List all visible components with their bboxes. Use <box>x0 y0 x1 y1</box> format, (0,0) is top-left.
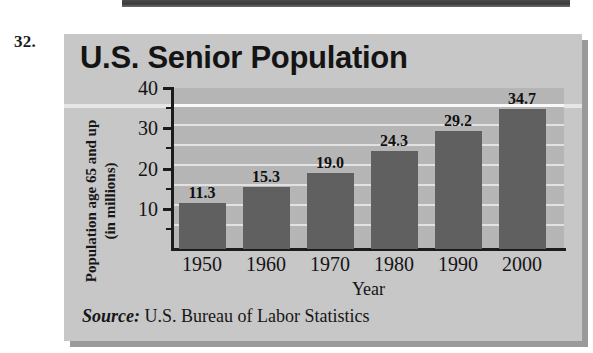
figure-page: 32. U.S. Senior Population Population ag… <box>0 0 593 353</box>
source-note: Source: U.S. Bureau of Labor Statistics <box>82 306 369 327</box>
x-axis-title: Year <box>173 279 564 300</box>
chart-title: U.S. Senior Population <box>80 40 520 76</box>
y-tick-5 <box>166 228 174 230</box>
x-tick-label-1960: 1960 <box>231 253 301 276</box>
y-tick-30 <box>163 127 174 130</box>
bar-1950 <box>179 203 226 249</box>
bar-1960 <box>243 187 290 249</box>
y-tick-20 <box>163 168 174 171</box>
bar-2000 <box>499 109 546 249</box>
source-text: U.S. Bureau of Labor Statistics <box>140 306 369 326</box>
bar-value-1950: 11.3 <box>172 184 232 202</box>
y-tick-35 <box>166 107 174 109</box>
bar-value-1960: 15.3 <box>236 168 296 186</box>
x-tick-label-1970: 1970 <box>295 253 365 276</box>
bar-1980 <box>371 151 418 249</box>
y-tick-25 <box>166 147 174 149</box>
x-tick-label-1990: 1990 <box>423 253 493 276</box>
y-tick-label-10: 10 <box>118 198 158 221</box>
problem-number: 32. <box>14 32 36 52</box>
bar-value-1970: 19.0 <box>300 154 360 172</box>
y-axis-title: Population age 65 and up (in millions) <box>82 101 120 301</box>
y-tick-10 <box>163 208 174 211</box>
bar-value-2000: 34.7 <box>492 90 552 108</box>
x-tick-label-2000: 2000 <box>487 253 557 276</box>
x-tick-label-1980: 1980 <box>359 253 429 276</box>
y-tick-label-20: 20 <box>118 158 158 181</box>
bar-1970 <box>307 173 354 249</box>
page-top-scan-artifact <box>122 0 570 7</box>
bar-value-1980: 24.3 <box>364 132 424 150</box>
x-tick-label-1950: 1950 <box>167 253 237 276</box>
figure-panel: U.S. Senior Population Population age 65… <box>64 34 582 341</box>
bar-value-1990: 29.2 <box>428 112 488 130</box>
bar-1990 <box>435 131 482 249</box>
y-tick-40 <box>163 87 174 90</box>
source-label: Source: <box>82 306 140 326</box>
y-tick-label-40: 40 <box>118 77 158 100</box>
y-tick-label-30: 30 <box>118 117 158 140</box>
